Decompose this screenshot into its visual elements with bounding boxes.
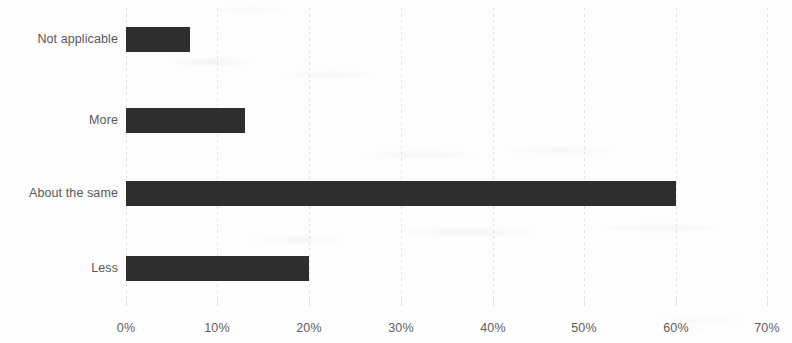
xtick-label-30: 30% (371, 321, 431, 335)
xtick-label-0: 0% (96, 321, 156, 335)
xtick-label-20: 20% (279, 321, 339, 335)
tick-mark-40 (493, 300, 494, 306)
gridline-70 (767, 8, 768, 300)
tick-mark-20 (309, 300, 310, 306)
xtick-label-10: 10% (187, 321, 247, 335)
xtick-label-40: 40% (463, 321, 523, 335)
xtick-label-60: 60% (646, 321, 706, 335)
bar-not-applicable (126, 27, 190, 52)
tick-mark-30 (401, 300, 402, 306)
tick-mark-70 (767, 300, 768, 306)
bar-more (126, 108, 245, 133)
xtick-label-50: 50% (554, 321, 614, 335)
tick-mark-50 (584, 300, 585, 306)
category-label-less: Less (0, 261, 118, 275)
category-label-about-the-same: About the same (0, 186, 118, 200)
plot-area: 0% 10% 20% 30% 40% 50% 60% 70% (126, 8, 768, 300)
tick-mark-0 (126, 300, 127, 306)
gridline-50 (584, 8, 585, 300)
category-label-not-applicable: Not applicable (0, 32, 118, 46)
xtick-label-70: 70% (737, 321, 792, 335)
bar-less (126, 256, 309, 281)
bar-about-the-same (126, 181, 676, 206)
category-label-more: More (0, 113, 118, 127)
tick-mark-10 (217, 300, 218, 306)
tick-mark-60 (676, 300, 677, 306)
gridline-40 (493, 8, 494, 300)
bar-chart: Not applicable More About the same Less … (0, 0, 792, 343)
gridline-30 (401, 8, 402, 300)
gridline-60 (676, 8, 677, 300)
